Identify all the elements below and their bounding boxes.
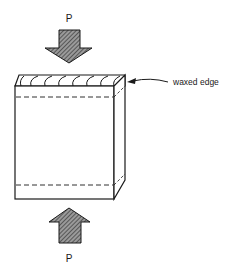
waxed-edge-label: waxed edge bbox=[172, 77, 219, 87]
corrugated-specimen bbox=[15, 75, 125, 199]
specimen-side-face bbox=[114, 75, 125, 199]
load-label-bottom: P bbox=[66, 253, 73, 264]
top-load-arrow-icon bbox=[45, 30, 92, 63]
waxed-edge-callout-arrow-icon bbox=[127, 78, 168, 84]
load-label-top: P bbox=[66, 13, 73, 24]
specimen-front-face bbox=[15, 86, 114, 199]
diagram-canvas: P waxed edge bbox=[0, 0, 237, 271]
bottom-load-arrow-icon bbox=[49, 208, 90, 243]
